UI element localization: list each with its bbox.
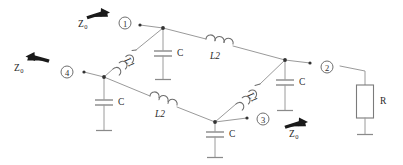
wire-port3-stub: [215, 118, 247, 122]
node-dot-port2: [308, 61, 311, 64]
capacitor-label-bottom-center: C: [229, 130, 235, 140]
wire-port1-stub: [140, 25, 163, 28]
capacitor-label-top-center: C: [177, 49, 183, 59]
wire-port4-stub: [84, 72, 104, 77]
arrow-right-port1: [86, 8, 110, 19]
port-label-4: 4: [64, 69, 70, 78]
port-label-1: 1: [122, 20, 128, 29]
capacitor-top-center: [154, 28, 172, 80]
arrow-left-port4: [26, 52, 51, 63]
wire-l2lower-to-bottom: [177, 107, 215, 122]
capacitor-label-right: C: [299, 78, 305, 88]
arrow-right-port3: [284, 118, 308, 129]
schematic-svg: [0, 0, 403, 165]
z0-symbol-3: Z: [289, 129, 295, 139]
capacitor-bottom-center: [206, 122, 224, 158]
resistor-body: [357, 85, 374, 118]
z0-symbol-4: Z: [14, 63, 20, 73]
node-dot-left-junction: [102, 75, 106, 79]
capacitor-label-left: C: [118, 98, 124, 108]
node-dot-port3: [245, 116, 248, 119]
wire-l1a-to-top: [136, 28, 163, 50]
wire-left-to-l2lower: [104, 77, 150, 96]
wire-l2upper-to-right: [233, 46, 285, 60]
node-dot-bottom-junction: [213, 120, 217, 124]
port-label-3: 3: [260, 116, 266, 125]
z0-subscript-3: 0: [295, 133, 298, 140]
l2-upper-coils: [206, 35, 233, 44]
z0-label-port3: Z0: [289, 130, 298, 140]
capacitor-left: [95, 77, 113, 131]
resistor-label-load: R: [380, 97, 386, 107]
wire-top-to-l2upper: [163, 28, 206, 39]
wire-port2-stub: [285, 60, 310, 63]
capacitor-right: [276, 60, 294, 111]
z0-subscript-4: 0: [20, 67, 23, 74]
inductor-label-l2-lower: L2: [155, 110, 165, 120]
l2-lower-coils: [150, 92, 177, 105]
z0-subscript-1: 0: [84, 23, 87, 30]
circuit-diagram-canvas: 1 2 3 4 Z0 Z0 Z0 L1 L1 L2 L2 C C C C R: [0, 0, 403, 165]
node-dot-port1: [138, 23, 141, 26]
inductor-label-l2-upper: L2: [210, 52, 220, 62]
z0-label-port4: Z0: [14, 64, 23, 74]
z0-symbol-1: Z: [78, 19, 84, 29]
port-label-2: 2: [324, 64, 330, 73]
z0-label-port1: Z0: [78, 20, 87, 30]
node-dot-top-junction: [161, 26, 165, 30]
node-dot-right-junction: [283, 58, 287, 62]
node-dot-port4: [82, 70, 85, 73]
resistor-load-branch: [340, 66, 374, 135]
